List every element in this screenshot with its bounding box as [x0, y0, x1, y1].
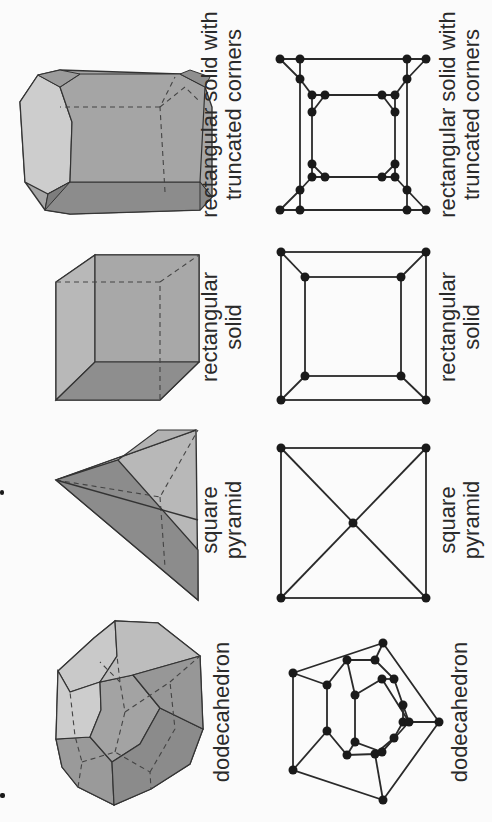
clipped-glyph [0, 490, 4, 495]
label-dodecahedron-solid: dodecahedron [210, 622, 234, 802]
label-truncated-solid: rectangular solid with truncated corners [198, 2, 246, 227]
label-square-pyramid-graph: square pyramid [436, 450, 484, 590]
clipped-glyph [0, 793, 5, 798]
label-dodecahedron-graph: dodecahedron [448, 622, 472, 802]
label-square-pyramid-solid: square pyramid [198, 450, 246, 590]
label-rectangular-solid-graph: rectangular solid [436, 257, 484, 397]
dodecahedron-graph [289, 639, 444, 805]
truncated-solid [20, 70, 212, 214]
figure-canvas: .e { stroke: #333; stroke-width: 1.4; fi… [0, 0, 492, 822]
figure-stage: .e { stroke: #333; stroke-width: 1.4; fi… [0, 0, 492, 822]
label-truncated-solid-graph: rectangular solid with truncated corners [436, 2, 484, 227]
square-pyramid-solid [56, 430, 198, 600]
rectangular-solid-graph [277, 248, 431, 405]
rectangular-solid [56, 255, 199, 400]
square-pyramid-graph [277, 444, 431, 603]
dodecahedron-solid [56, 621, 203, 805]
truncated-solid-graph [276, 55, 431, 215]
label-rectangular-solid: rectangular solid [198, 257, 246, 397]
